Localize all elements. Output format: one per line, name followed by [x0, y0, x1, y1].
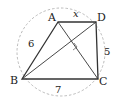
point-label-c: C [99, 75, 107, 88]
diagonal-bd [22, 22, 96, 79]
point-label-a: A [47, 11, 57, 24]
circumcircle [17, 8, 105, 96]
point-label-d: D [97, 11, 106, 24]
edge-label-bc: 7 [55, 84, 61, 95]
point-label-b: B [10, 74, 18, 87]
diagonal-ac [58, 22, 98, 79]
edge-label-cd: 5 [104, 46, 110, 57]
diagram-canvas: A D B C x 6 5 7 [0, 0, 119, 100]
edge-label-ad: x [73, 8, 79, 19]
edge-label-ab: 6 [28, 38, 34, 49]
